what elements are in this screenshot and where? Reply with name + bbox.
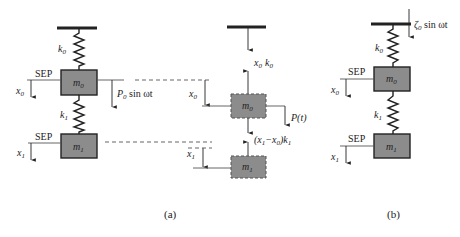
b-label-sep-bottom: SEP [348, 133, 366, 144]
two-dof-vibration-diagram: k0 m0 SEP x0 P0 sin ωt k1 m1 SEP x1 x0k0 [0, 0, 460, 237]
label-p0-sin-wt: P0 sin ωt [116, 88, 153, 101]
b-label-x1: x1 [330, 151, 339, 164]
fb-label-x1: x1 [186, 148, 195, 161]
label-sep-top: SEP [35, 68, 53, 79]
b-spring-k0 [388, 24, 398, 67]
panel-a-free-body: x0k0 m0 x0 P(t) (x1−x0)k1 m1 x1 [186, 27, 307, 178]
label-x0: x0 [15, 85, 24, 98]
panel-b-system: ζ0 sin ωt k0 m0 SEP x0 k1 m1 SEP x1 [330, 9, 448, 164]
caption-b: (b) [387, 208, 400, 221]
b-label-sep-top: SEP [348, 66, 366, 77]
label-zeta0-sin-wt: ζ0 sin ωt [414, 19, 448, 32]
caption-a: (a) [164, 208, 177, 221]
fb-label-x0: x0 [188, 88, 197, 101]
label-k1: k1 [60, 109, 68, 122]
panel-a-system: k0 m0 SEP x0 P0 sin ωt k1 m1 SEP x1 [15, 28, 153, 160]
spring-k1 [74, 95, 84, 134]
b-label-k1: k1 [374, 109, 382, 122]
label-sep-bottom: SEP [35, 131, 53, 142]
label-k0: k0 [58, 43, 66, 56]
label-x1-minus-x0-k1: (x1−x0)k1 [254, 134, 291, 147]
spring-k0 [74, 28, 84, 70]
b-spring-k1 [388, 91, 398, 134]
label-x1: x1 [16, 147, 25, 160]
b-label-x0: x0 [330, 84, 339, 97]
label-p-t: P(t) [290, 112, 307, 124]
b-label-k0: k0 [375, 42, 383, 55]
label-x0-k0: x0k0 [253, 57, 273, 70]
